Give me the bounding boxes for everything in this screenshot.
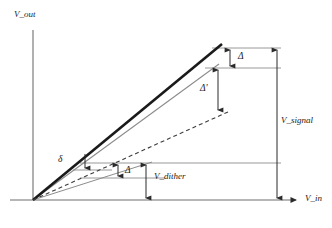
x-axis-label: V_in <box>305 194 322 203</box>
curve-group <box>33 44 230 200</box>
delta-upper-label: Δ <box>238 52 244 62</box>
y-axis-label: V_out <box>14 10 36 19</box>
figure-canvas: V_out V_in Δ Δ' Δ δ V_signal V_dither <box>0 0 332 228</box>
delta-small-label: δ <box>58 155 62 165</box>
v-signal-label: V_signal <box>281 116 313 125</box>
diagram-svg <box>0 0 332 228</box>
dashed-response-line <box>33 111 230 200</box>
v-dither-label: V_dither <box>154 172 186 181</box>
delta-prime-label: Δ' <box>200 84 208 94</box>
shallow-gray-line <box>33 162 152 200</box>
delta-lower-label: Δ <box>125 166 131 176</box>
dithered-thin-line <box>33 64 219 200</box>
reference-lines <box>73 48 281 178</box>
axis-group <box>10 30 296 200</box>
ideal-thick-line <box>33 44 222 200</box>
